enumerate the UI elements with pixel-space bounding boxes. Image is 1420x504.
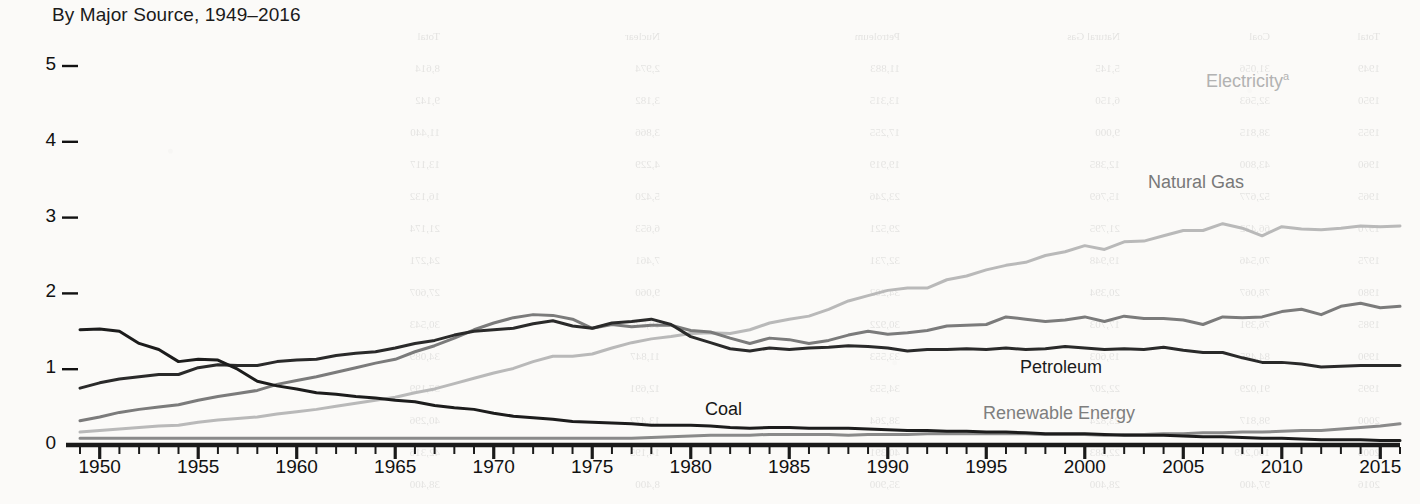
x-axis-label: 1975 [557, 456, 627, 478]
series-label-electricity: Electricitya [1206, 70, 1289, 92]
x-axis-label: 1960 [262, 456, 332, 478]
x-axis-label: 1950 [65, 456, 135, 478]
x-axis-label: 1970 [459, 456, 529, 478]
chart-figure: TotalCoalNatural Gas PetroleumNuclearTot… [0, 0, 1420, 504]
series-line-coal [80, 329, 1400, 440]
x-axis-label: 1955 [163, 456, 233, 478]
series-label-renewable-energy: Renewable Energy [983, 403, 1135, 424]
series-label-coal: Coal [705, 399, 742, 420]
series-label-natural-gas: Natural Gas [1148, 172, 1244, 193]
y-axis-label: 2 [30, 280, 56, 302]
y-axis-label: 0 [30, 432, 56, 454]
y-axis-label: 5 [30, 53, 56, 75]
x-axis-label: 1965 [360, 456, 430, 478]
y-axis-label: 3 [30, 205, 56, 227]
y-axis-label: 4 [30, 129, 56, 151]
x-axis-label: 1990 [853, 456, 923, 478]
x-axis-label: 2000 [1050, 456, 1120, 478]
x-axis-label: 1980 [656, 456, 726, 478]
y-axis-label: 1 [30, 356, 56, 378]
x-axis-label: 1985 [754, 456, 824, 478]
footnote-marker: a [1283, 70, 1289, 82]
x-axis-label: 1995 [951, 456, 1021, 478]
series-line-petroleum [80, 319, 1400, 388]
x-axis-label: 2005 [1148, 456, 1218, 478]
x-axis-label: 2015 [1345, 456, 1415, 478]
x-axis-label: 2010 [1247, 456, 1317, 478]
series-label-petroleum: Petroleum [1020, 357, 1102, 378]
